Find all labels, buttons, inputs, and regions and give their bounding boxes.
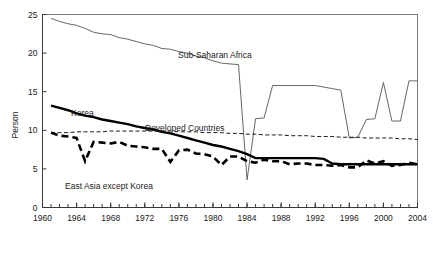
y-tick-label: 5 [33,164,38,174]
y-tick-label: 20 [28,48,38,58]
x-tick-label: 1996 [340,213,359,223]
x-tick-label: 1960 [33,213,52,223]
x-tick-label: 1992 [306,213,325,223]
x-tick-label: 1980 [203,213,222,223]
y-tick-label: 0 [33,203,38,213]
x-tick-label: 2004 [408,213,427,223]
y-tick-label: 15 [28,87,38,97]
x-tick-label: 1976 [169,213,188,223]
x-tick-label: 1972 [135,213,154,223]
x-tick-label: 1988 [272,213,291,223]
x-tick-label: 1964 [67,213,86,223]
line-chart: 0510152025 19601964196819721976198019841… [0,0,444,255]
annotation-east-asia-except-korea: East Asia except Korea [65,181,153,191]
annotation-sub-saharan-africa: Sub-Saharan Africa [178,50,252,60]
y-tick-label: 25 [28,10,38,20]
y-tick-label: 10 [28,125,38,135]
annotation-korea: Korea [71,108,94,118]
x-tick-label: 1968 [101,213,120,223]
x-tick-label: 1984 [238,213,257,223]
x-tick-label: 2000 [374,213,393,223]
chart-container: 0510152025 19601964196819721976198019841… [0,0,444,255]
y-axis-title: Person [10,111,20,138]
annotation-developed-countries: Developed Countries [145,123,224,133]
